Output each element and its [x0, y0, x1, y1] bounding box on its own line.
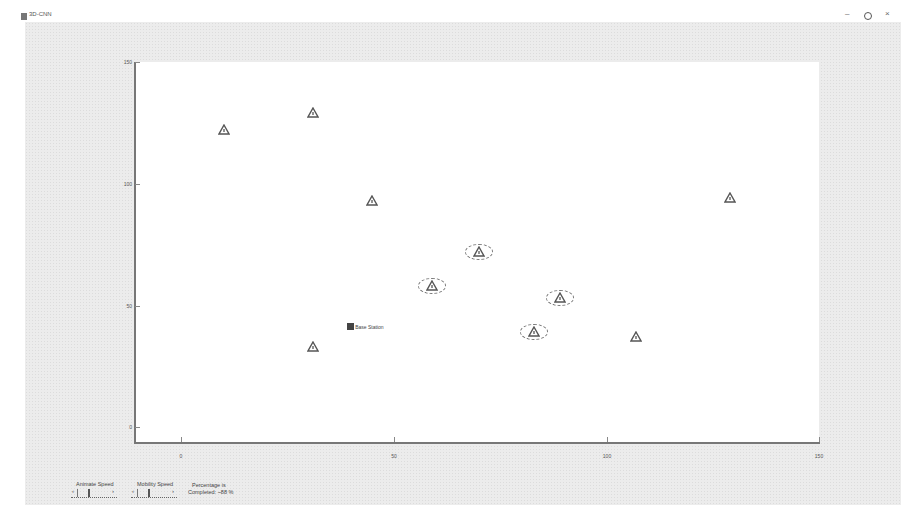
x-tick-label: 150: [809, 453, 829, 459]
x-tick-label: 0: [171, 453, 191, 459]
title-bar: 3D-CNN – ×: [0, 0, 920, 22]
y-tick-label: 0: [112, 424, 132, 430]
close-button[interactable]: ×: [885, 9, 890, 18]
x-tick: [819, 437, 820, 442]
mobility-speed-label: Mobility Speed: [137, 481, 173, 487]
sensor-node-triangle-icon[interactable]: [218, 124, 230, 135]
mobility-speed-slider[interactable]: ‹ ›: [131, 489, 177, 498]
x-tick: [181, 437, 182, 442]
window-title: 3D-CNN: [29, 11, 52, 17]
sensor-node-triangle-icon[interactable]: [724, 192, 736, 203]
slider-thumb[interactable]: [88, 489, 90, 497]
y-tick: [135, 184, 140, 185]
slider-edge: [77, 489, 78, 497]
y-tick-label: 50: [112, 303, 132, 309]
sensor-node-triangle-icon[interactable]: [307, 107, 319, 118]
sensor-node-triangle-icon[interactable]: [426, 280, 438, 291]
animate-speed-label: Animate Speed: [76, 481, 114, 487]
minimize-button[interactable]: –: [845, 9, 849, 18]
x-axis: [134, 442, 820, 444]
arrow-right-icon[interactable]: ›: [172, 488, 174, 494]
sensor-node-triangle-icon[interactable]: [554, 292, 566, 303]
sensor-node-triangle-icon[interactable]: [630, 331, 642, 342]
y-tick: [135, 306, 140, 307]
base-station-label: Base Station: [355, 324, 383, 330]
x-tick: [607, 437, 608, 442]
arrow-left-icon[interactable]: ‹: [72, 488, 74, 494]
animate-speed-slider[interactable]: ‹ ›: [71, 489, 117, 498]
app-icon: [21, 13, 27, 20]
y-tick: [135, 427, 140, 428]
slider-thumb[interactable]: [148, 489, 150, 497]
y-tick-label: 150: [112, 59, 132, 65]
sensor-node-triangle-icon[interactable]: [307, 341, 319, 352]
x-tick: [394, 437, 395, 442]
arrow-right-icon[interactable]: ›: [112, 488, 114, 494]
arrow-left-icon[interactable]: ‹: [132, 488, 134, 494]
sensor-node-triangle-icon[interactable]: [473, 246, 485, 257]
percentage-label-line1: Percentage is: [192, 482, 226, 488]
maximize-button[interactable]: [864, 12, 872, 20]
sensor-node-triangle-icon[interactable]: [366, 195, 378, 206]
percentage-completed-value: Completed: ~88 %: [188, 489, 233, 495]
y-tick: [135, 62, 140, 63]
slider-edge: [137, 489, 138, 497]
sensor-node-triangle-icon[interactable]: [528, 326, 540, 337]
y-axis: [134, 62, 136, 443]
x-tick-label: 50: [384, 453, 404, 459]
base-station-marker[interactable]: [347, 323, 354, 330]
y-tick-label: 100: [112, 181, 132, 187]
x-tick-label: 100: [597, 453, 617, 459]
